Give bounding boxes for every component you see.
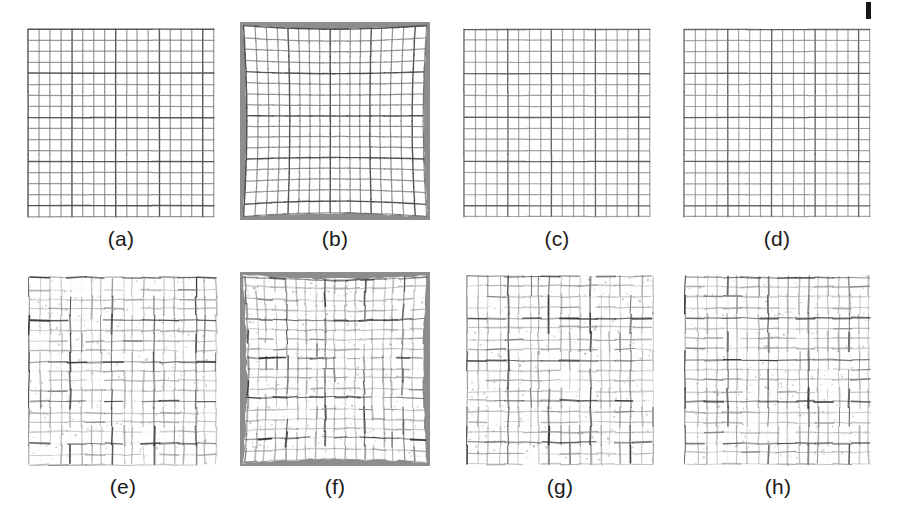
panel-e (28, 276, 218, 466)
panel-b (240, 22, 430, 220)
panel-caption-c: (c) (462, 228, 652, 249)
panel-caption-b: (b) (240, 228, 430, 249)
panel-c (462, 27, 652, 219)
panel-h (684, 274, 872, 466)
panel-caption-a: (a) (26, 228, 216, 249)
figure-root: (a)(b)(c)(d)(e)(f)(g)(h) (0, 0, 899, 526)
panel-g (466, 274, 654, 466)
panel-a (26, 27, 216, 219)
panel-caption-e: (e) (28, 476, 218, 497)
panel-d (682, 27, 872, 219)
panel-caption-d: (d) (682, 228, 872, 249)
panel-f (240, 272, 430, 466)
panel-caption-h: (h) (684, 476, 872, 497)
panel-caption-f: (f) (240, 476, 430, 497)
panel-caption-g: (g) (466, 476, 654, 497)
page-edge-mark (866, 2, 871, 19)
